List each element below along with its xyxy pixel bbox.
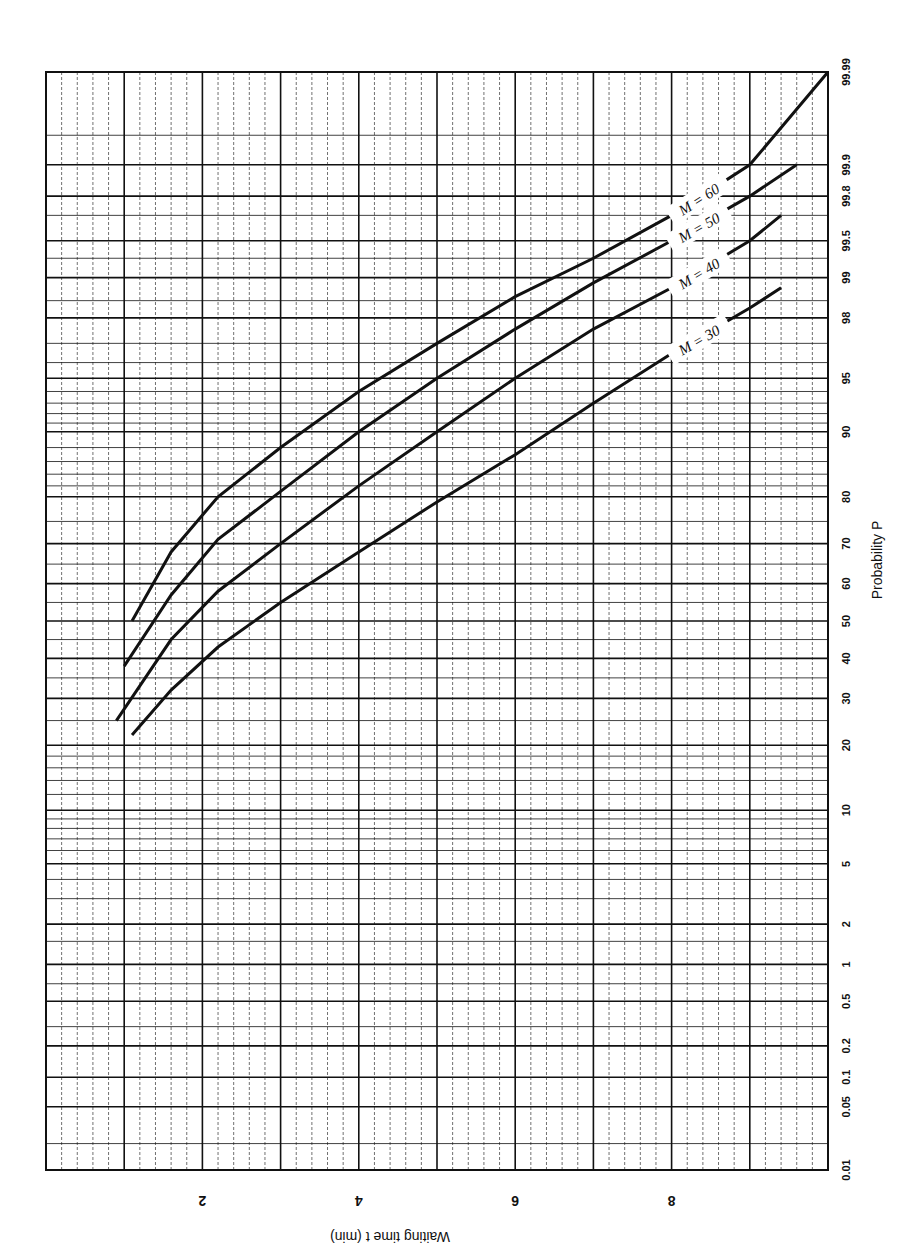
probability-tick-label: 0.5	[840, 994, 852, 1009]
probability-tick-label: 10	[840, 804, 852, 816]
probability-tick-label: 0.01	[840, 1159, 852, 1180]
probability-tick-label: 99.8	[840, 185, 852, 206]
waiting-time-tick-label: 4	[355, 1193, 363, 1209]
probability-tick-label: 0.1	[840, 1070, 852, 1085]
waiting-time-tick-label: 8	[667, 1193, 675, 1209]
curve-label: M = 30	[664, 314, 733, 365]
probability-tick-label: 60	[840, 577, 852, 589]
probability-tick-label: 1	[840, 961, 852, 967]
probability-tick-label: 98	[840, 312, 852, 324]
waiting-time-axis-ticks: 2468	[198, 1193, 675, 1209]
probability-tick-label: 99	[840, 271, 852, 283]
curve-label: M = 40	[664, 247, 733, 299]
y-axis-title: Probability P	[869, 521, 885, 600]
curve-m60	[132, 72, 828, 621]
chart-grid	[46, 72, 828, 1170]
probability-tick-label: 5	[840, 861, 852, 867]
probability-axis-ticks: 0.010.050.10.20.512510203040506070809095…	[840, 58, 852, 1180]
probability-tick-label: 20	[840, 739, 852, 751]
probability-tick-label: 70	[840, 537, 852, 549]
probability-tick-label: 80	[840, 491, 852, 503]
probability-tick-label: 2	[840, 921, 852, 927]
probability-tick-label: 90	[840, 426, 852, 438]
waiting-time-tick-label: 2	[198, 1193, 206, 1209]
waiting-time-tick-label: 6	[511, 1193, 519, 1209]
probability-tick-label: 95	[840, 372, 852, 384]
probability-chart: M = 60M = 50M = 40M = 30 0.010.050.10.20…	[0, 0, 902, 1257]
x-axis-title: Waiting time t (min)	[330, 1229, 450, 1245]
probability-tick-label: 30	[840, 692, 852, 704]
probability-tick-label: 0.2	[840, 1038, 852, 1053]
probability-tick-label: 99.99	[840, 58, 852, 86]
probability-tick-label: 0.05	[840, 1096, 852, 1117]
probability-tick-label: 50	[840, 615, 852, 627]
probability-tick-label: 99.5	[840, 230, 852, 251]
probability-tick-label: 40	[840, 652, 852, 664]
probability-tick-label: 99.9	[840, 154, 852, 175]
